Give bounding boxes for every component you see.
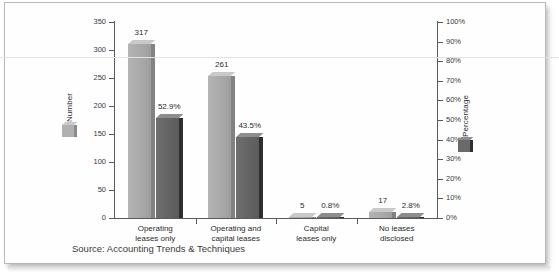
right-axis-tick-label: 90% xyxy=(446,38,461,46)
bar-value-label: 43.5% xyxy=(226,121,273,130)
right-axis-tick xyxy=(438,22,443,23)
left-axis-tick-label: 50 xyxy=(98,186,106,194)
left-axis-tick xyxy=(109,134,114,135)
bar xyxy=(317,213,344,218)
bar xyxy=(369,208,396,218)
left-y-axis-line xyxy=(114,21,115,219)
right-axis-tick xyxy=(438,198,443,199)
bar xyxy=(156,114,183,218)
right-axis-tick-label: 0% xyxy=(446,214,457,222)
legend-number-label: Number xyxy=(65,93,74,122)
left-axis-tick-label: 0 xyxy=(102,214,106,222)
left-axis-tick xyxy=(109,162,114,163)
left-axis-tick-label: 200 xyxy=(93,102,106,110)
bar xyxy=(128,40,155,218)
right-axis-tick xyxy=(438,218,443,219)
category-label: Operating andcapital leases xyxy=(191,224,281,244)
legend-number-swatch xyxy=(62,122,77,137)
legend-percentage-label: Percentage xyxy=(461,95,470,137)
bar-value-label: 2.8% xyxy=(387,201,434,210)
left-axis-tick-label: 250 xyxy=(93,74,106,82)
right-axis-tick-label: 20% xyxy=(446,175,461,183)
left-axis-tick-label: 150 xyxy=(93,130,106,138)
right-axis-tick-label: 10% xyxy=(446,194,461,202)
left-axis-tick xyxy=(109,106,114,107)
left-axis-tick-label: 350 xyxy=(93,18,106,26)
left-axis-tick xyxy=(109,78,114,79)
left-axis-tick xyxy=(109,218,114,219)
bar xyxy=(236,133,263,218)
left-axis-tick xyxy=(109,22,114,23)
left-axis-tick-label: 300 xyxy=(93,46,106,54)
right-axis-tick xyxy=(438,159,443,160)
source-note: Source: Accounting Trends & Techniques xyxy=(72,243,245,254)
bar xyxy=(289,213,316,218)
right-axis-tick xyxy=(438,100,443,101)
right-axis-tick xyxy=(438,42,443,43)
bar-value-label: 52.9% xyxy=(146,102,193,111)
bar-chart: 050100150200250300350 0%10%20%30%40%50%6… xyxy=(0,0,559,278)
right-axis-tick xyxy=(438,140,443,141)
right-axis-tick-label: 70% xyxy=(446,77,461,85)
right-axis-tick xyxy=(438,61,443,62)
right-axis-tick-label: 30% xyxy=(446,155,461,163)
right-axis-tick xyxy=(438,179,443,180)
category-label: Capitalleases only xyxy=(271,224,361,244)
legend-number: Number xyxy=(62,93,77,137)
bar-value-label: 0.8% xyxy=(307,201,354,210)
left-axis-tick-label: 100 xyxy=(93,158,106,166)
bar-value-label: 317 xyxy=(118,28,165,37)
legend-percentage: Percentage xyxy=(458,95,473,152)
bar xyxy=(397,213,424,218)
bar xyxy=(208,72,235,218)
bar-value-label: 261 xyxy=(198,60,245,69)
right-axis-tick xyxy=(438,81,443,82)
right-axis-tick xyxy=(438,120,443,121)
right-axis-tick-label: 80% xyxy=(446,57,461,65)
right-axis-tick-label: 100% xyxy=(446,18,465,26)
left-axis-tick xyxy=(109,50,114,51)
category-label: No leasesdisclosed xyxy=(352,224,442,244)
category-label: Operatingleases only xyxy=(110,224,200,244)
left-axis-tick xyxy=(109,190,114,191)
legend-percentage-swatch xyxy=(458,137,473,152)
